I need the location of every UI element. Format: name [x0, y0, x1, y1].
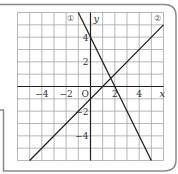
x-tick-label: −4	[35, 89, 49, 99]
x-tick-label: 4	[136, 89, 142, 99]
x-tick-label: −2	[60, 89, 73, 99]
y-tick-label: 2	[83, 57, 89, 67]
coordinate-plane-figure: −4−22442−2−4 x y O ①②	[0, 0, 178, 174]
x-axis-label: x	[160, 88, 166, 99]
axes	[18, 13, 164, 161]
line-1-label: ①	[67, 14, 74, 23]
line-2	[30, 25, 164, 161]
line-2-label: ②	[154, 14, 161, 23]
y-tick-label: 4	[83, 33, 89, 43]
y-axis-label: y	[93, 13, 100, 24]
y-tick-label: −4	[75, 131, 89, 141]
origin-label: O	[82, 89, 89, 99]
